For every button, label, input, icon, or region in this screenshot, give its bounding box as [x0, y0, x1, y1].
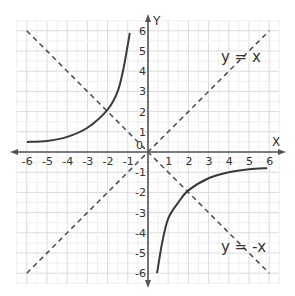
y-tick-label: 3	[139, 85, 146, 98]
x-tick-label: 1	[165, 155, 172, 168]
x-tick-label: -6	[22, 155, 33, 168]
x-tick-label: -3	[82, 155, 93, 168]
y-tick-label: -4	[135, 227, 146, 240]
y-axis-label: Y	[152, 14, 161, 28]
y-tick-label: -2	[135, 186, 146, 199]
x-axis-arrow-left	[10, 149, 18, 155]
y-tick-label: 1	[139, 126, 146, 139]
x-tick-label: -1	[123, 155, 134, 168]
x-tick-label: 5	[246, 155, 253, 168]
y-axis-arrow-up	[145, 14, 151, 22]
x-tick-label: 4	[226, 155, 233, 168]
curve	[157, 168, 267, 273]
y-tick-label: -6	[135, 267, 146, 280]
x-tick-label: -4	[62, 155, 73, 168]
y-tick-label: -3	[135, 207, 146, 220]
x-axis-label: X	[272, 135, 280, 149]
line-label: y = x	[221, 48, 261, 66]
y-tick-label: -5	[135, 247, 146, 260]
curve	[27, 33, 130, 142]
y-tick-label: 5	[139, 45, 146, 58]
line-label: y = -x	[221, 238, 266, 256]
x-tick-label: -5	[42, 155, 53, 168]
graph: X Y 0 -6-5-4-3-2-1123456-6-5-4-3-2-11234…	[0, 0, 295, 296]
x-axis-arrow-right	[278, 149, 286, 155]
x-tick-label: -2	[103, 155, 114, 168]
y-tick-label: 4	[139, 65, 146, 78]
y-tick-label: 6	[139, 25, 146, 38]
y-tick-label: -1	[135, 166, 146, 179]
x-tick-label: 6	[266, 155, 273, 168]
x-tick-label: 3	[206, 155, 213, 168]
y-tick-label: 2	[139, 106, 146, 119]
x-tick-label: 2	[185, 155, 192, 168]
y-axis-arrow-down	[145, 280, 151, 288]
